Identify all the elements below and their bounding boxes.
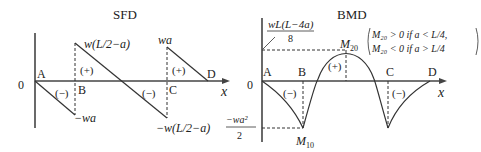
sfd-point-b: B	[78, 83, 86, 97]
bmd-min-denominator: 2	[237, 130, 242, 141]
sfd-value-c-bottom: −w(L/2−a)	[156, 121, 210, 135]
bmd-point-c: C	[386, 65, 394, 79]
bmd-condition-1: M₂₀ > 0 if a < L/4,	[371, 29, 447, 40]
sfd-point-d: D	[207, 67, 216, 81]
sfd-title: SFD	[113, 7, 137, 22]
bmd-origin-label: 0	[247, 78, 253, 92]
bmd-peak-numerator: wL(L−4a)	[268, 18, 314, 31]
bmd-point-d: D	[428, 65, 437, 79]
bmd-condition-2: M₂₀ < 0 if a > L/4	[371, 43, 445, 54]
bmd-diagram: BMD 0 x A B C D wL(L−4a) 8 −wa² 2 M10 M2…	[226, 7, 478, 150]
bmd-title: BMD	[337, 7, 367, 22]
sfd-point-a: A	[37, 67, 46, 81]
sfd-sign-ab: (−)	[55, 87, 69, 100]
sfd-point-c: C	[169, 83, 177, 97]
bmd-arrow-icon	[439, 78, 447, 84]
bmd-curve-bc	[303, 54, 388, 129]
sfd-sign-bc-minus: (−)	[142, 87, 156, 100]
bmd-sign-ab: (−)	[283, 87, 297, 100]
bmd-sign-mid: (+)	[328, 60, 342, 73]
bmd-point-b: B	[298, 65, 306, 79]
sfd-value-b-bottom: −wa	[74, 111, 96, 125]
bmd-peak-leader	[263, 37, 275, 49]
sfd-value-b-top: w(L/2−a)	[84, 37, 130, 51]
bmd-condition-right-paren	[476, 28, 478, 55]
bmd-min-numerator: −wa²	[226, 114, 248, 125]
force-diagrams: SFD 0 x A B C D w(L/2−a) −wa wa −w(L/2−a…	[0, 0, 481, 152]
sfd-x-label: x	[220, 84, 228, 99]
bmd-m20-label: M20	[339, 37, 358, 53]
sfd-sign-cd: (+)	[172, 64, 186, 77]
sfd-sign-b-plus: (+)	[80, 64, 94, 77]
sfd-origin-label: 0	[18, 78, 24, 92]
bmd-peak-denominator: 8	[288, 33, 293, 44]
sfd-value-c-top: wa	[158, 33, 172, 47]
bmd-sign-cd: (−)	[392, 87, 406, 100]
bmd-condition-left-paren	[368, 28, 370, 55]
sfd-diagram: SFD 0 x A B C D w(L/2−a) −wa wa −w(L/2−a…	[18, 7, 230, 135]
bmd-m10-label: M10	[295, 134, 314, 150]
bmd-x-label: x	[437, 85, 445, 100]
bmd-point-a: A	[263, 65, 272, 79]
